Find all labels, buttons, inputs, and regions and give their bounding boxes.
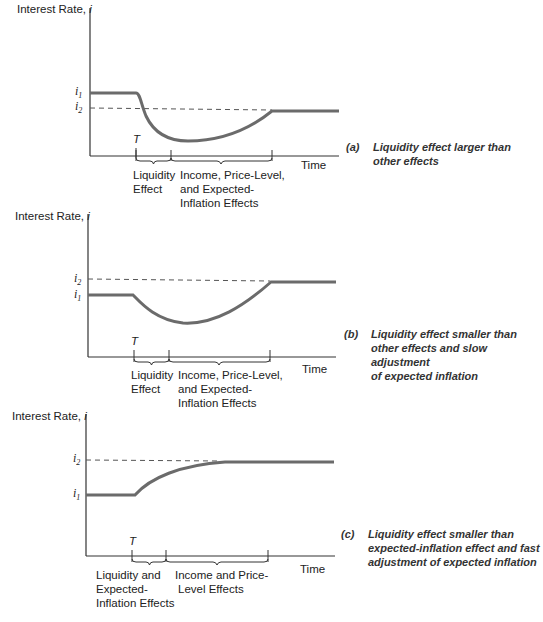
x-axis-label: Time [300,562,325,576]
phase-1-label: Liquidity andExpected-Inflation Effects [96,568,174,610]
tick-i1: i1 [73,486,80,505]
phase-2-label: Income and Price-Level Effects [175,568,268,596]
phase-braces [132,550,268,565]
caption-c: (c) Liquidity effect smaller than expect… [341,527,540,569]
i2-reference-line [86,460,220,461]
time-marker-t: T [129,534,136,548]
tick-i2: i2 [73,451,80,470]
y-axis-label: Interest Rate, i [12,409,87,423]
interest-rate-curve [86,462,334,495]
